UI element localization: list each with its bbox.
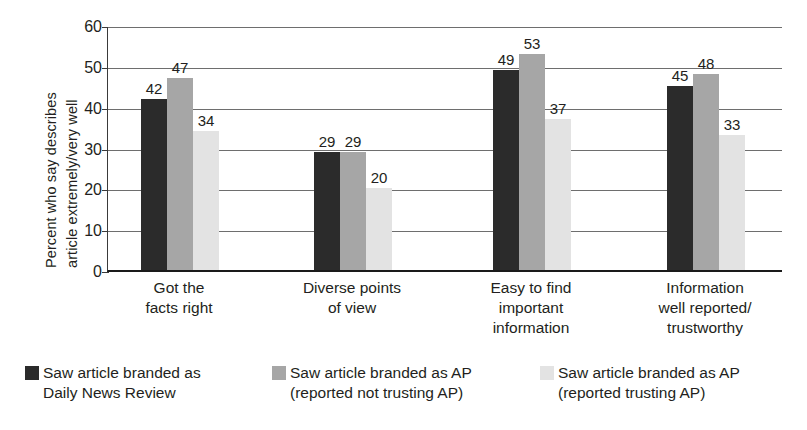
- x-axis-label-2: Easy to findimportantinformation: [446, 278, 616, 337]
- x-axis-label-line: Information: [620, 278, 790, 298]
- bar-value-label: 20: [359, 170, 399, 185]
- x-axis-label-line: Got the: [94, 278, 264, 298]
- y-axis-ticks: 0102030405060: [52, 27, 102, 272]
- y-axis-tick-label: 10: [58, 222, 102, 240]
- legend-item-2[interactable]: Saw article branded as AP (reported trus…: [540, 363, 740, 403]
- bar-1-2: [366, 188, 392, 270]
- bar-value-label: 47: [160, 60, 200, 75]
- y-axis-tick-label: 30: [58, 141, 102, 159]
- x-axis-label-line: Diverse points: [267, 278, 437, 298]
- legend-swatch-icon: [272, 366, 286, 380]
- x-axis-label-line: Easy to find: [446, 278, 616, 298]
- y-axis-tick-label: 40: [58, 100, 102, 118]
- x-axis-label-line: trustworthy: [620, 318, 790, 338]
- legend-label: Saw article branded as AP (reported not …: [290, 363, 472, 403]
- x-axis-label-line: well reported/: [620, 298, 790, 318]
- y-axis-tick-label: 20: [58, 181, 102, 199]
- x-axis-label-0: Got thefacts right: [94, 278, 264, 318]
- x-axis-label-line: facts right: [94, 298, 264, 318]
- bar-0-0: [141, 99, 167, 271]
- y-axis-tick-mark: [102, 272, 109, 273]
- bar-value-label: 34: [186, 113, 226, 128]
- bar-value-label: 48: [686, 56, 726, 71]
- chart-legend: Saw article branded as Daily News Review…: [0, 363, 807, 423]
- x-axis-label-line: of view: [267, 298, 437, 318]
- bar-2-2: [545, 119, 571, 270]
- bar-1-0: [314, 152, 340, 270]
- bar-chart-figure: Percent who say describes article extrem…: [0, 0, 807, 430]
- bar-3-1: [693, 74, 719, 270]
- x-axis-label-line: information: [446, 318, 616, 338]
- x-axis-label-line: important: [446, 298, 616, 318]
- bar-value-label: 33: [712, 117, 752, 132]
- legend-item-1[interactable]: Saw article branded as AP (reported not …: [272, 363, 472, 403]
- y-axis-tick-label: 50: [58, 59, 102, 77]
- y-axis-tick-label: 60: [58, 18, 102, 36]
- bar-value-label: 37: [538, 101, 578, 116]
- bar-value-label: 53: [512, 36, 552, 51]
- bar-0-2: [193, 131, 219, 270]
- x-axis-label-3: Informationwell reported/trustworthy: [620, 278, 790, 337]
- bar-3-0: [667, 86, 693, 270]
- legend-swatch-icon: [540, 366, 554, 380]
- bar-value-label: 29: [333, 134, 373, 149]
- plot-area: 424734292920495337454833: [107, 27, 782, 272]
- legend-label: Saw article branded as Daily News Review: [43, 363, 201, 403]
- legend-label: Saw article branded as AP (reported trus…: [558, 363, 740, 403]
- gridline: [108, 27, 782, 28]
- bar-0-1: [167, 78, 193, 270]
- bar-2-0: [493, 70, 519, 270]
- bar-2-1: [519, 54, 545, 270]
- bar-3-2: [719, 135, 745, 270]
- legend-swatch-icon: [25, 366, 39, 380]
- x-axis-label-1: Diverse pointsof view: [267, 278, 437, 318]
- legend-item-0[interactable]: Saw article branded as Daily News Review: [25, 363, 201, 403]
